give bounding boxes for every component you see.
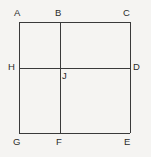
vertex-label-b: B [55, 8, 61, 18]
vertex-label-a: A [14, 8, 20, 18]
vertex-label-j: J [62, 71, 67, 81]
vertex-label-c: C [123, 8, 130, 18]
vertex-label-h: H [8, 62, 15, 72]
geometry-figure: A B C D E F G H J [0, 0, 151, 157]
vertex-label-e: E [124, 137, 130, 147]
vertex-label-g: G [13, 137, 21, 147]
vertex-label-f: F [56, 137, 62, 147]
figure-canvas [0, 0, 151, 157]
vertex-label-d: D [133, 62, 140, 72]
